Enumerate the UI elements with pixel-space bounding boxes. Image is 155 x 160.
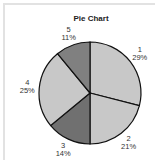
- slice-label: 29%: [132, 53, 147, 62]
- pie-chart: 129%221%314%425%511%: [0, 0, 155, 160]
- slice-label: 11%: [61, 33, 76, 42]
- slice-label: 21%: [121, 142, 136, 151]
- slice-label: 25%: [20, 86, 35, 95]
- slice-label: 14%: [56, 149, 71, 158]
